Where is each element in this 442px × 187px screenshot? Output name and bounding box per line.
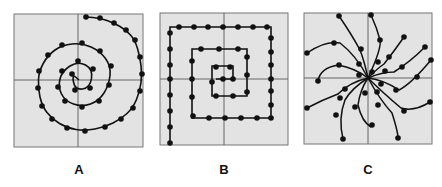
panel-c [304, 12, 434, 144]
figure-canvas [0, 0, 442, 187]
panel-b [160, 13, 288, 146]
panel-label-b: B [209, 162, 239, 177]
panel-label-c: C [353, 162, 383, 177]
panel-a [14, 14, 145, 147]
panel-label-a: A [64, 162, 94, 177]
